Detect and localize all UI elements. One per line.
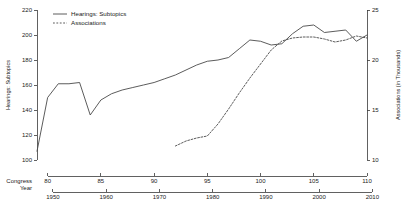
y-axis-left-tick-label: 100 bbox=[22, 157, 33, 163]
x-axis-year-tick-label: 1980 bbox=[206, 194, 220, 200]
x-axis-year-title: Year bbox=[20, 185, 32, 191]
y-axis-right-tick-label: 25 bbox=[372, 7, 379, 13]
line-chart: 100120140160180200220Hearings: Subtopics… bbox=[0, 0, 410, 208]
y-axis-right-tick-label: 15 bbox=[372, 107, 379, 113]
series-line-dashed bbox=[175, 36, 367, 146]
x-axis-year-tick-label: 1950 bbox=[46, 194, 60, 200]
y-axis-right-title: Associations (in Thousands) bbox=[395, 50, 401, 120]
x-axis-year-tick-label: 1990 bbox=[259, 194, 273, 200]
x-axis-year-tick-label: 1960 bbox=[100, 194, 114, 200]
chart-container: 100120140160180200220Hearings: Subtopics… bbox=[0, 0, 410, 208]
y-axis-left-tick-label: 220 bbox=[22, 7, 33, 13]
y-axis-right-tick-label: 10 bbox=[372, 157, 379, 163]
y-axis-left-tick-label: 160 bbox=[22, 82, 33, 88]
x-axis-year-tick-label: 2000 bbox=[312, 194, 326, 200]
x-axis-congress-tick-label: 90 bbox=[151, 178, 158, 184]
x-axis-congress-title: Congress bbox=[6, 178, 32, 184]
legend-label: Hearings: Subtopics bbox=[71, 10, 126, 17]
x-axis-congress-tick-label: 110 bbox=[362, 178, 372, 184]
y-axis-left-tick-label: 140 bbox=[22, 107, 33, 113]
legend-label: Associations bbox=[71, 19, 106, 26]
series-line-solid bbox=[37, 25, 367, 151]
y-axis-left-tick-label: 180 bbox=[22, 57, 33, 63]
x-axis-year-tick-label: 1970 bbox=[153, 194, 167, 200]
y-axis-left-title: Hearings: Subtopics bbox=[5, 60, 11, 110]
y-axis-left-tick-label: 120 bbox=[22, 132, 33, 138]
x-axis-congress-tick-label: 105 bbox=[309, 178, 320, 184]
x-axis-year-tick-label: 2010 bbox=[366, 194, 380, 200]
y-axis-right-tick-label: 20 bbox=[372, 57, 379, 63]
y-axis-left-tick-label: 200 bbox=[22, 32, 33, 38]
x-axis-congress-tick-label: 100 bbox=[256, 178, 267, 184]
x-axis-congress-tick-label: 95 bbox=[204, 178, 211, 184]
x-axis-congress-tick-label: 85 bbox=[98, 178, 105, 184]
x-axis-congress-tick-label: 80 bbox=[44, 178, 51, 184]
